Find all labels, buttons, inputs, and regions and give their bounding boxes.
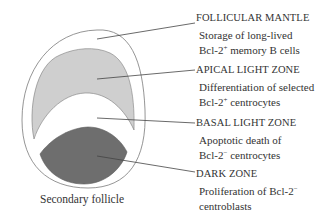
zone-heading-dark-zone: DARK ZONE: [196, 168, 257, 179]
desc-line: Bcl-2− centrocytes: [199, 148, 281, 163]
zone-desc-apical-light-zone: Differentiation of selected Bcl-2+ centr…: [199, 80, 314, 110]
zone-heading-follicular-mantle: FOLLICULAR MANTLE: [196, 12, 309, 23]
desc-text: Proliferation of Bcl-2: [199, 185, 294, 197]
zone-heading-basal-light-zone: BASAL LIGHT ZONE: [196, 117, 296, 128]
diagram-caption: Secondary follicle: [40, 193, 124, 205]
desc-text: centrocytes: [227, 96, 280, 108]
desc-line: Bcl-2+ memory B cells: [199, 43, 300, 58]
desc-line: Bcl-2+ centrocytes: [199, 95, 314, 110]
desc-text: Bcl-2: [199, 44, 223, 56]
desc-text: centroblasts: [199, 200, 252, 212]
zone-desc-follicular-mantle: Storage of long-lived Bcl-2+ memory B ce…: [199, 28, 300, 58]
desc-line: Storage of long-lived: [199, 28, 300, 43]
desc-line: Apoptotic death of: [199, 133, 281, 148]
desc-text: Storage of long-lived: [199, 29, 292, 41]
desc-text: Bcl-2: [199, 149, 223, 161]
zone-heading-apical-light-zone: APICAL LIGHT ZONE: [196, 64, 300, 75]
desc-line: Proliferation of Bcl-2−: [199, 184, 298, 199]
desc-line: centroblasts: [199, 199, 298, 214]
desc-line: Differentiation of selected: [199, 80, 314, 95]
desc-text: Apoptotic death of: [199, 134, 281, 146]
desc-text: Bcl-2: [199, 96, 223, 108]
desc-text: memory B cells: [227, 44, 299, 56]
zone-desc-basal-light-zone: Apoptotic death of Bcl-2− centrocytes: [199, 133, 281, 163]
zone-desc-dark-zone: Proliferation of Bcl-2− centroblasts: [199, 184, 298, 214]
leader-line-mantle: [97, 23, 195, 39]
desc-text: Differentiation of selected: [199, 81, 314, 93]
superscript: −: [294, 185, 298, 193]
desc-text: centrocytes: [227, 149, 280, 161]
